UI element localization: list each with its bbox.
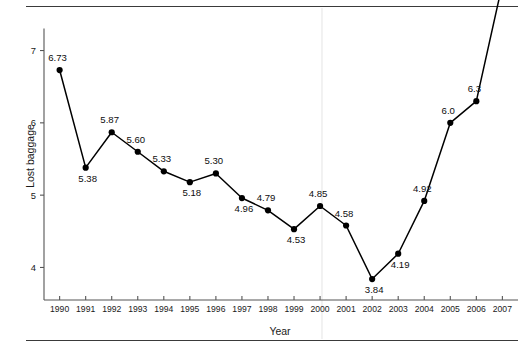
data-point-value-label: 4.19 (391, 259, 410, 270)
data-point-value-label: 4.58 (335, 208, 354, 219)
figure-container: 4567199019911992199319941995199619971998… (0, 0, 530, 349)
data-point-value-label: 4.79 (257, 192, 276, 203)
x-axis-tick-label: 1994 (154, 304, 173, 314)
data-point-marker (83, 165, 89, 171)
data-point-labels-group: 6.735.385.875.605.335.185.304.964.794.53… (48, 0, 495, 295)
data-point-marker (265, 207, 271, 213)
data-point-value-label: 6.73 (48, 52, 67, 63)
x-axis-tick-label: 1992 (102, 304, 121, 314)
x-axis-tick-label: 2004 (415, 304, 434, 314)
line-chart-plot: 4567199019911992199319941995199619971998… (0, 0, 530, 349)
x-axis-tick-label: 1998 (258, 304, 277, 314)
x-axis-tick-label: 1999 (284, 304, 303, 314)
x-axis-tick-label: 2007 (493, 304, 512, 314)
y-axis-tick-label: 7 (31, 45, 36, 56)
axes-group: 4567199019911992199319941995199619971998… (31, 29, 518, 314)
data-point-marker (421, 198, 427, 204)
x-axis-tick-label: 2001 (337, 304, 356, 314)
x-axis-tick-label: 1995 (180, 304, 199, 314)
x-axis-tick-label: 2000 (311, 304, 330, 314)
data-point-marker (291, 226, 297, 232)
data-point-value-label: 4.85 (309, 188, 328, 199)
data-point-value-label: 5.87 (100, 114, 119, 125)
data-point-value-label: 5.60 (126, 134, 145, 145)
x-axis-tick-label: 2006 (467, 304, 486, 314)
data-point-marker (161, 168, 167, 174)
y-axis-tick-label: 4 (31, 262, 36, 273)
x-axis-tick-label: 2005 (441, 304, 460, 314)
data-point-marker (109, 129, 115, 135)
data-series-group (57, 0, 506, 282)
data-point-value-label: 6.0 (442, 105, 455, 116)
x-axis-tick-label: 1990 (50, 304, 69, 314)
data-point-value-label: 5.30 (205, 155, 224, 166)
data-point-value-label: 5.38 (78, 173, 97, 184)
data-point-marker (239, 195, 245, 201)
data-point-marker (343, 222, 349, 228)
y-axis-title: Lost baggage (24, 104, 36, 208)
data-point-marker (447, 120, 453, 126)
data-point-value-label: 4.92 (413, 183, 432, 194)
data-point-value-label: 4.53 (287, 234, 306, 245)
data-point-marker (473, 98, 479, 104)
x-axis-tick-label: 1991 (76, 304, 95, 314)
x-axis-tick-label: 2002 (363, 304, 382, 314)
data-point-value-label: 6.3 (468, 83, 481, 94)
data-point-marker (57, 67, 63, 73)
data-point-value-label: 5.33 (152, 153, 171, 164)
data-point-marker (213, 170, 219, 176)
x-axis-title: Year (230, 325, 330, 337)
x-axis-tick-label: 1996 (206, 304, 225, 314)
data-point-value-label: 4.96 (235, 203, 254, 214)
x-axis-tick-label: 2003 (389, 304, 408, 314)
data-point-marker (317, 203, 323, 209)
data-point-marker (395, 251, 401, 257)
data-point-marker (187, 179, 193, 185)
data-point-marker (135, 149, 141, 155)
x-axis-tick-label: 1993 (128, 304, 147, 314)
data-point-value-label: 5.18 (183, 187, 202, 198)
x-axis-tick-label: 1997 (232, 304, 251, 314)
data-point-marker (369, 276, 375, 282)
data-point-value-label: 3.84 (365, 284, 384, 295)
